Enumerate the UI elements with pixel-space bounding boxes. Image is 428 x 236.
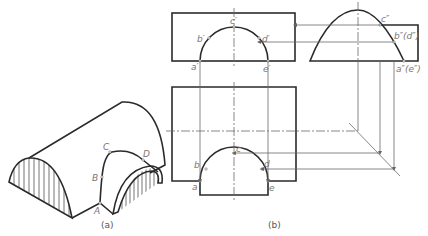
caption-b: (b): [268, 220, 281, 230]
label-ae-double-prime: a″(e″): [396, 64, 421, 74]
technical-drawing: A B C D (a) a′ b′ c′ d′ e′ c″ b″(d″) a″(…: [0, 0, 428, 236]
label-d: d: [264, 159, 270, 169]
caption-a: (a): [101, 220, 114, 230]
label-a: a: [192, 182, 198, 192]
label-d-prime: d′: [262, 34, 270, 44]
label-C: C: [103, 142, 110, 152]
front-view: a′ b′ c′ d′ e′: [172, 8, 295, 74]
label-bd-double-prime: b″(d″): [394, 31, 419, 41]
isometric-view: A B C D (a): [9, 102, 165, 230]
label-c-prime: c′: [230, 16, 237, 26]
label-c-double-prime: c″: [381, 14, 390, 24]
label-a-prime: a′: [191, 62, 199, 72]
left-arch-section: [14, 150, 69, 225]
side-view: c″ b″(d″) a″(e″): [310, 2, 421, 74]
label-c: c: [236, 144, 241, 154]
projection-lines: [200, 25, 400, 181]
label-b: b: [194, 160, 200, 170]
label-D: D: [143, 149, 150, 159]
label-e: e: [269, 183, 275, 193]
label-B: B: [92, 173, 98, 183]
top-view: a b c d e (b): [166, 82, 358, 230]
label-A: A: [93, 206, 100, 216]
label-e-prime: e′: [263, 64, 271, 74]
label-b-prime: b′: [197, 34, 205, 44]
